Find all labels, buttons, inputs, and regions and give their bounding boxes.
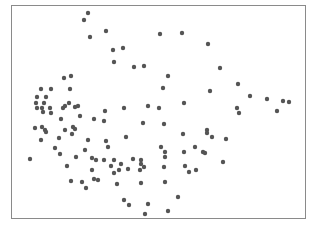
data-point — [122, 198, 126, 202]
data-point — [76, 104, 80, 108]
data-point — [63, 104, 67, 108]
data-point — [162, 165, 166, 169]
data-point — [86, 138, 90, 142]
data-point — [78, 114, 82, 118]
data-point — [62, 76, 66, 80]
data-point — [111, 48, 115, 52]
data-points — [28, 11, 291, 216]
data-point — [86, 11, 90, 15]
data-point — [35, 95, 39, 99]
data-point — [181, 132, 185, 136]
data-point — [59, 117, 63, 121]
data-point — [142, 64, 146, 68]
data-point — [159, 145, 163, 149]
data-point — [35, 106, 39, 110]
data-point — [131, 157, 135, 161]
data-point — [208, 89, 212, 93]
data-point — [237, 111, 241, 115]
plot-frame — [12, 6, 306, 219]
data-point — [235, 106, 239, 110]
data-point — [44, 95, 48, 99]
data-point — [127, 203, 131, 207]
data-point — [221, 160, 225, 164]
data-point — [126, 167, 130, 171]
data-point — [287, 100, 291, 104]
data-point — [115, 182, 119, 186]
data-point — [157, 106, 161, 110]
data-point — [275, 109, 279, 113]
data-point — [57, 136, 61, 140]
data-point — [92, 177, 96, 181]
data-point — [44, 130, 48, 134]
data-point — [96, 178, 100, 182]
data-point — [146, 104, 150, 108]
data-point — [104, 29, 108, 33]
data-point — [142, 165, 146, 169]
data-point — [158, 32, 162, 36]
data-point — [124, 135, 128, 139]
data-point — [83, 148, 87, 152]
data-point — [109, 164, 113, 168]
data-point — [183, 164, 187, 168]
data-point — [70, 132, 74, 136]
data-point — [161, 86, 165, 90]
data-point — [92, 117, 96, 121]
data-point — [218, 66, 222, 70]
data-point — [73, 127, 77, 131]
data-point — [122, 106, 126, 110]
data-point — [94, 158, 98, 162]
data-point — [90, 156, 94, 160]
data-point — [88, 35, 92, 39]
data-point — [281, 99, 285, 103]
data-point — [187, 170, 191, 174]
data-point — [139, 181, 143, 185]
data-point — [138, 168, 142, 172]
data-point — [224, 137, 228, 141]
scatter-plot — [0, 0, 315, 228]
data-point — [49, 111, 53, 115]
data-point — [112, 158, 116, 162]
data-point — [248, 94, 252, 98]
data-point — [193, 145, 197, 149]
data-point — [74, 155, 78, 159]
data-point — [166, 74, 170, 78]
data-point — [65, 164, 69, 168]
data-point — [102, 119, 106, 123]
data-point — [69, 179, 73, 183]
data-point — [82, 18, 86, 22]
data-point — [112, 60, 116, 64]
data-point — [90, 168, 94, 172]
data-point — [117, 168, 121, 172]
data-point — [180, 31, 184, 35]
data-point — [205, 131, 209, 135]
data-point — [39, 138, 43, 142]
data-point — [106, 145, 110, 149]
data-point — [41, 110, 45, 114]
data-point — [49, 87, 53, 91]
data-point — [34, 101, 38, 105]
data-point — [176, 195, 180, 199]
data-point — [67, 101, 71, 105]
data-point — [58, 152, 62, 156]
data-point — [121, 46, 125, 50]
data-point — [33, 126, 37, 130]
data-point — [69, 74, 73, 78]
data-point — [163, 180, 167, 184]
data-point — [206, 42, 210, 46]
data-point — [139, 158, 143, 162]
data-point — [182, 101, 186, 105]
data-point — [236, 82, 240, 86]
data-point — [63, 128, 67, 132]
data-point — [166, 209, 170, 213]
data-point — [48, 106, 52, 110]
data-point — [210, 135, 214, 139]
data-point — [42, 101, 46, 105]
data-point — [112, 171, 116, 175]
data-point — [182, 150, 186, 154]
data-point — [141, 121, 145, 125]
data-point — [68, 87, 72, 91]
data-point — [28, 157, 32, 161]
data-point — [163, 155, 167, 159]
data-point — [102, 158, 106, 162]
data-point — [203, 151, 207, 155]
